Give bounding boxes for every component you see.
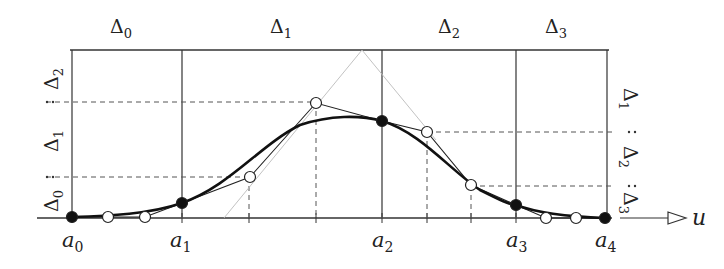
control-point [311,98,322,109]
left-interval-labels: Δ2 Δ1 Δ0 [40,68,66,212]
u-axis-label: u [692,205,706,230]
control-point [466,180,477,191]
knot-point [67,212,78,223]
interval-label-2: Δ2 [438,15,460,41]
construction-lines [224,50,436,218]
left-label-2: Δ2 [40,68,66,90]
left-label-0: Δ0 [40,190,66,212]
control-point [422,127,433,138]
knot-point [600,213,611,224]
left-label-1: Δ1 [40,130,66,152]
knot-label-a3: a3 [506,228,527,255]
control-polygon [72,103,605,218]
knot-label-a4: a4 [595,228,617,255]
knot-point [377,116,388,127]
right-label-3: Δ3 [616,192,642,214]
knot-labels: a0 a1 a2 a3 a4 [62,228,617,255]
control-point [571,213,582,224]
knot-label-a2: a2 [372,228,393,255]
separator-dots [46,101,636,187]
top-interval-labels: Δ0 Δ1 Δ2 Δ3 [110,15,567,41]
control-point [140,212,151,223]
interval-label-1: Δ1 [270,15,292,41]
right-label-2: Δ2 [616,146,642,168]
knot-label-a0: a0 [62,228,83,255]
bspline-diagram: Δ0 Δ1 Δ2 Δ3 Δ2 Δ1 Δ0 Δ1 Δ2 Δ3 a0 a1 a2 a… [0,0,724,269]
knot-point [177,198,188,209]
interval-label-0: Δ0 [110,15,132,41]
control-point [245,172,256,183]
knot-label-a1: a1 [170,228,191,255]
control-point [103,212,114,223]
interval-label-3: Δ3 [545,15,567,41]
knot-point [511,200,522,211]
spline-curve [72,117,605,218]
grid-frame [70,50,609,217]
right-label-1: Δ1 [616,88,642,110]
control-point [541,213,552,224]
right-interval-labels: Δ1 Δ2 Δ3 [616,88,642,214]
